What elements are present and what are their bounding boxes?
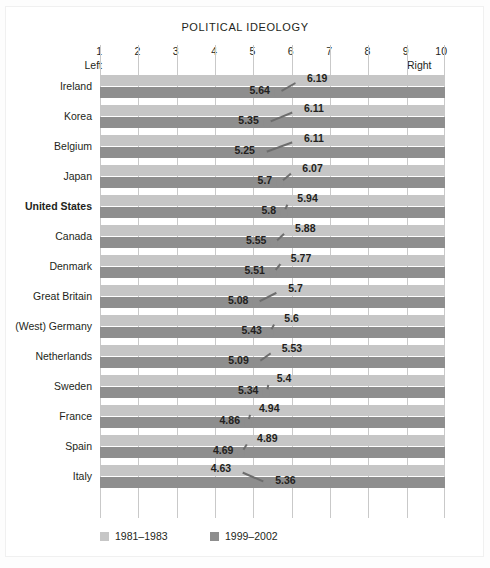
data-label-1999-2002: 4.86	[220, 414, 240, 426]
category-label-netherlands: Netherlands	[0, 350, 92, 362]
chart-row: 6.115.35	[100, 105, 445, 135]
chart-row: 6.075.7	[100, 165, 445, 195]
data-label-1999-2002: 5.8	[261, 204, 276, 216]
data-point-1999-2002	[276, 179, 284, 187]
data-label-1981-1983: 6.07	[302, 162, 322, 174]
data-point-1981-1983	[235, 467, 243, 475]
data-point-1981-1983	[247, 407, 255, 415]
data-label-1999-2002: 5.55	[246, 234, 266, 246]
data-point-1981-1983	[292, 137, 300, 145]
data-label-1999-2002: 5.34	[238, 384, 258, 396]
row-band-1981-1983	[100, 165, 445, 176]
chart-row: 5.75.08	[100, 285, 445, 315]
category-label-korea: Korea	[0, 110, 92, 122]
x-axis-tick-4: 4	[177, 45, 217, 57]
legend-swatch-1981-1983	[100, 532, 109, 541]
legend-label-1999-2002: 1999–2002	[225, 530, 278, 542]
chart-row: 6.195.64	[100, 75, 445, 105]
data-point-1999-2002	[253, 359, 261, 367]
data-label-1981-1983: 5.77	[291, 252, 311, 264]
data-point-1999-2002	[259, 149, 267, 157]
chart-row: 5.535.09	[100, 345, 445, 375]
category-label-france: France	[0, 410, 92, 422]
category-label-belgium: Belgium	[0, 140, 92, 152]
data-point-1981-1983	[279, 257, 287, 265]
data-point-1999-2002	[266, 329, 274, 337]
category-label-spain: Spain	[0, 440, 92, 452]
data-label-1981-1983: 5.88	[295, 222, 315, 234]
data-label-1981-1983: 5.53	[282, 342, 302, 354]
data-label-1981-1983: 4.63	[211, 462, 231, 474]
data-point-1981-1983	[285, 197, 293, 205]
data-point-1999-2002	[244, 419, 252, 427]
category-axis-labels: IrelandKoreaBelgiumJapanUnited StatesCan…	[0, 75, 92, 518]
data-label-1999-2002: 5.35	[238, 114, 258, 126]
data-point-1981-1983	[270, 347, 278, 355]
data-point-1981-1983	[272, 317, 280, 325]
category-label-united-states: United States	[0, 200, 92, 212]
row-band-1999-2002	[100, 357, 445, 368]
data-point-1999-2002	[280, 209, 288, 217]
x-axis-tick-9: 9	[369, 45, 409, 57]
row-band-1981-1983	[100, 225, 445, 236]
x-axis-right-label: Right	[407, 59, 447, 71]
page-title: POLITICAL IDEOLOGY	[0, 21, 490, 33]
category-label-great-britain: Great Britain	[0, 290, 92, 302]
chart-row: 5.775.51	[100, 255, 445, 285]
x-axis-tick-7: 7	[292, 45, 332, 57]
category-label-japan: Japan	[0, 170, 92, 182]
data-label-1999-2002: 5.25	[234, 144, 254, 156]
x-axis-tick-10: 10	[407, 45, 447, 57]
chart-row: 5.65.43	[100, 315, 445, 345]
row-band-1981-1983	[100, 75, 445, 86]
data-point-1999-2002	[269, 269, 277, 277]
row-band-1999-2002	[100, 297, 445, 308]
category-label-west-germany: (West) Germany	[0, 320, 92, 332]
data-label-1999-2002: 5.36	[275, 474, 295, 486]
chart-row: 6.115.25	[100, 135, 445, 165]
row-band-1981-1983	[100, 135, 445, 146]
data-label-1981-1983: 6.19	[307, 72, 327, 84]
row-band-1999-2002	[100, 417, 445, 428]
row-band-1999-2002	[100, 477, 445, 488]
row-band-1999-2002	[100, 447, 445, 458]
row-band-1999-2002	[100, 87, 445, 98]
x-axis-tick-6: 6	[254, 45, 294, 57]
chart-row: 5.885.55	[100, 225, 445, 255]
data-label-1999-2002: 5.09	[228, 354, 248, 366]
x-axis-tick-2: 2	[100, 45, 140, 57]
data-point-1981-1983	[292, 107, 300, 115]
data-label-1981-1983: 4.89	[257, 432, 277, 444]
category-label-canada: Canada	[0, 230, 92, 242]
data-point-1999-2002	[252, 299, 260, 307]
legend-swatch-1999-2002	[210, 532, 219, 541]
data-label-1999-2002: 5.43	[241, 324, 261, 336]
data-label-1999-2002: 5.7	[258, 174, 273, 186]
data-point-1999-2002	[263, 479, 271, 487]
legend-label-1981-1983: 1981–1983	[115, 530, 168, 542]
data-point-1981-1983	[245, 437, 253, 445]
data-point-1981-1983	[265, 377, 273, 385]
data-label-1999-2002: 4.69	[213, 444, 233, 456]
data-label-1999-2002: 5.08	[228, 294, 248, 306]
row-band-1999-2002	[100, 177, 445, 188]
data-label-1981-1983: 6.11	[304, 102, 324, 114]
chart-row: 5.945.8	[100, 195, 445, 225]
x-axis-tick-3: 3	[139, 45, 179, 57]
data-label-1981-1983: 5.7	[288, 282, 303, 294]
chart-figure: POLITICAL IDEOLOGY 12345678910LeftRight …	[0, 0, 490, 568]
data-label-1981-1983: 5.4	[277, 372, 292, 384]
x-axis-tick-5: 5	[215, 45, 255, 57]
x-axis: 12345678910LeftRight	[100, 45, 445, 75]
x-axis-tick-8: 8	[330, 45, 370, 57]
data-point-1981-1983	[276, 287, 284, 295]
plot-area: 6.195.646.115.356.115.256.075.75.945.85.…	[100, 75, 445, 518]
data-label-1981-1983: 6.11	[304, 132, 324, 144]
data-point-1981-1983	[290, 167, 298, 175]
category-label-italy: Italy	[0, 470, 92, 482]
x-axis-left-label: Left	[62, 59, 102, 71]
data-label-1999-2002: 5.51	[244, 264, 264, 276]
data-label-1999-2002: 5.64	[249, 84, 269, 96]
row-band-1981-1983	[100, 465, 445, 476]
data-point-1999-2002	[237, 449, 245, 457]
